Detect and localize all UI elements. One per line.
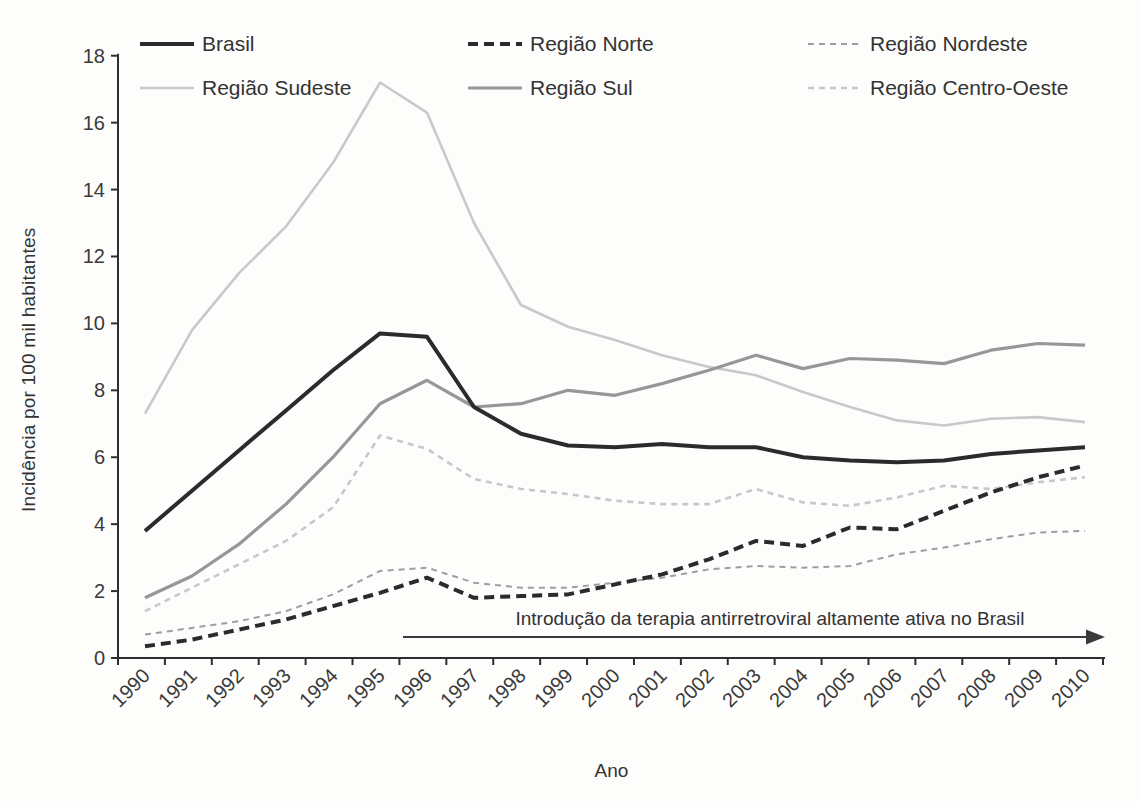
incidence-line-chart-figure: Incidência por 100 mil habitantes 024681… <box>0 0 1139 802</box>
x-tick-label: 1994 <box>295 664 342 711</box>
x-tick-label: 1998 <box>483 664 530 711</box>
series-line-regi-o-sudeste <box>145 83 1085 426</box>
y-tick-label: 8 <box>94 379 105 401</box>
x-tick-label: 1993 <box>248 664 295 711</box>
chart-canvas: 0246810121416181990199119921993199419951… <box>0 0 1139 802</box>
x-tick-label: 1992 <box>201 664 248 711</box>
x-tick-label: 2004 <box>765 664 812 711</box>
legend: BrasilRegião NorteRegião NordesteRegião … <box>140 32 1068 99</box>
x-tick-label: 2005 <box>812 664 859 711</box>
x-tick-label: 2002 <box>671 664 718 711</box>
annotation-text: Introdução da terapia antirretroviral al… <box>515 608 1024 629</box>
x-axis-title: Ano <box>118 760 1105 782</box>
y-tick-label: 10 <box>83 312 105 334</box>
haart-annotation: Introdução da terapia antirretroviral al… <box>403 608 1105 645</box>
y-tick-label: 16 <box>83 112 105 134</box>
y-tick-label: 12 <box>83 245 105 267</box>
legend-label-regi-o-centro-oeste: Região Centro-Oeste <box>870 76 1068 99</box>
y-axis-title: Incidência por 100 mil habitantes <box>14 110 44 630</box>
y-tick-label: 2 <box>94 580 105 602</box>
x-tick-label: 1991 <box>154 664 201 711</box>
x-tick-label: 2008 <box>953 664 1000 711</box>
annotation-arrow-head <box>1086 630 1105 645</box>
legend-label-regi-o-sul: Região Sul <box>530 76 633 99</box>
y-tick-label: 18 <box>83 45 105 67</box>
x-tick-label: 1990 <box>107 664 154 711</box>
x-tick-label: 2006 <box>859 664 906 711</box>
x-tick-label: 2009 <box>1000 664 1047 711</box>
legend-label-brasil: Brasil <box>202 32 255 55</box>
y-tick-label: 14 <box>83 179 105 201</box>
x-tick-label: 1996 <box>389 664 436 711</box>
x-tick-label: 1995 <box>342 664 389 711</box>
series-lines <box>145 83 1085 647</box>
y-tick-label: 0 <box>94 647 105 669</box>
series-line-regi-o-sul <box>145 344 1085 598</box>
y-tick-label: 4 <box>94 513 105 535</box>
x-tick-label: 2000 <box>577 664 624 711</box>
x-tick-label: 1997 <box>436 664 483 711</box>
legend-label-regi-o-norte: Região Norte <box>530 32 654 55</box>
x-tick-label: 1999 <box>530 664 577 711</box>
x-tick-label: 2010 <box>1047 664 1094 711</box>
legend-label-regi-o-nordeste: Região Nordeste <box>870 32 1028 55</box>
x-tick-label: 2003 <box>718 664 765 711</box>
legend-label-regi-o-sudeste: Região Sudeste <box>202 76 351 99</box>
y-tick-label: 6 <box>94 446 105 468</box>
x-tick-label: 2007 <box>906 664 953 711</box>
x-tick-label: 2001 <box>624 664 671 711</box>
